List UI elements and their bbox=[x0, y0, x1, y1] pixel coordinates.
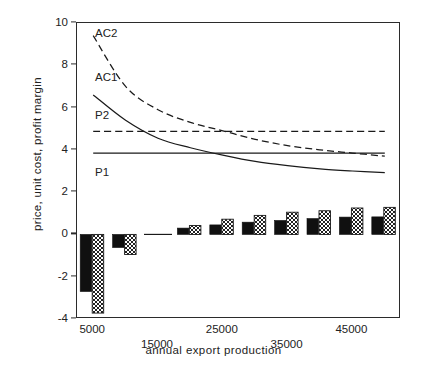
bar bbox=[210, 225, 222, 235]
y-tick-label: 4 bbox=[28, 143, 68, 155]
bar-group bbox=[80, 207, 395, 313]
curve-label-p1: P1 bbox=[95, 166, 109, 178]
curve-label-ac2: AC2 bbox=[95, 27, 117, 39]
bar bbox=[254, 215, 266, 234]
curve-label-ac1: AC1 bbox=[95, 71, 117, 83]
bar bbox=[222, 219, 234, 234]
x-axis-title: annual export production bbox=[0, 344, 427, 356]
x-tick-label: 5000 bbox=[57, 323, 127, 335]
bar bbox=[319, 211, 331, 235]
plot-area: AC2AC1P2P1 bbox=[76, 22, 400, 318]
x-tick-label: 15000 bbox=[122, 338, 192, 350]
bar bbox=[189, 226, 201, 235]
y-tick-label: 2 bbox=[28, 185, 68, 197]
curve-AC1 bbox=[93, 95, 385, 173]
bar bbox=[384, 207, 396, 234]
bar bbox=[125, 234, 137, 254]
y-tick-label: 8 bbox=[28, 58, 68, 70]
x-tick-label: 45000 bbox=[316, 323, 386, 335]
curve-AC2 bbox=[93, 36, 385, 157]
plot-canvas bbox=[77, 23, 401, 319]
x-tick-label: 25000 bbox=[187, 323, 257, 335]
bar bbox=[339, 217, 351, 234]
bar bbox=[351, 208, 363, 234]
bar bbox=[80, 234, 92, 291]
bar bbox=[92, 234, 104, 313]
curve-group bbox=[93, 36, 385, 173]
curve-label-p2: P2 bbox=[95, 109, 109, 121]
y-tick-label: -2 bbox=[28, 270, 68, 282]
bar bbox=[242, 222, 254, 234]
bar bbox=[287, 212, 299, 234]
bar bbox=[113, 234, 125, 247]
bar bbox=[275, 220, 287, 234]
x-tick-label: 35000 bbox=[252, 338, 322, 350]
y-tick-label: 6 bbox=[28, 101, 68, 113]
bar bbox=[307, 219, 319, 235]
y-tick-label: 10 bbox=[28, 16, 68, 28]
bar bbox=[372, 217, 384, 235]
chart-figure: price, unit cost, profit margin annual e… bbox=[0, 0, 427, 367]
bar bbox=[177, 228, 189, 234]
y-tick-label: 0 bbox=[28, 227, 68, 239]
